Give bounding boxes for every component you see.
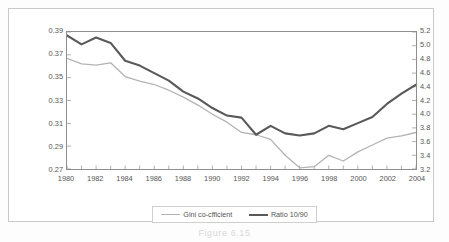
x-tick-label: 1994: [263, 174, 279, 183]
figure-caption: Figure 6.15: [0, 228, 449, 242]
x-tick-label: 1996: [292, 174, 308, 183]
y-tick-label-right: 4.2: [420, 97, 430, 104]
x-axis-labels: 1980198219841986198819901992199419961998…: [66, 174, 417, 188]
y-tick-label-left: 0.29: [49, 143, 63, 150]
x-tick-label: 2002: [380, 174, 396, 183]
y-tick-label-right: 4.6: [420, 69, 430, 76]
series-line-ratio-10-90: [67, 35, 416, 135]
x-tick-label: 1998: [321, 174, 337, 183]
figure-frame: 0.270.290.310.330.350.370.39 3.23.43.63.…: [8, 8, 434, 222]
y-axis-left-labels: 0.270.290.310.330.350.370.39: [31, 31, 63, 170]
legend-line-swatch: [161, 214, 180, 215]
y-tick-label-right: 3.2: [420, 166, 430, 173]
x-tick-label: 1988: [175, 174, 191, 183]
figure-root: 0.270.290.310.330.350.370.39 3.23.43.63.…: [0, 0, 449, 242]
y-tick-label-right: 4.8: [420, 55, 430, 62]
y-tick-label-right: 5.0: [420, 41, 430, 48]
y-tick-label-left: 0.27: [49, 166, 63, 173]
legend-label: Ratio 10/90: [271, 210, 308, 219]
y-tick-label-left: 0.39: [49, 27, 63, 34]
y-tick-label-right: 3.4: [420, 152, 430, 159]
x-tick-label: 2000: [350, 174, 366, 183]
series-line-gini-co-cfficient: [67, 58, 416, 168]
y-tick-label-left: 0.35: [49, 74, 63, 81]
y-tick-label-right: 4.4: [420, 83, 430, 90]
y-tick-label-left: 0.33: [49, 97, 63, 104]
x-tick-label: 2004: [409, 174, 425, 183]
y-tick-label-right: 3.8: [420, 125, 430, 132]
y-tick-label-left: 0.31: [49, 120, 63, 127]
y-tick-label-right: 3.6: [420, 138, 430, 145]
legend-line-swatch: [249, 214, 268, 216]
chart-legend: Gini co-cfficientRatio 10/90: [152, 206, 317, 223]
y-tick-label-left: 0.37: [49, 50, 63, 57]
legend-entry[interactable]: Ratio 10/90: [249, 210, 308, 219]
y-tick-label-right: 4.0: [420, 111, 430, 118]
x-tick-label: 1990: [204, 174, 220, 183]
x-tick-label: 1982: [87, 174, 103, 183]
chart-plot-svg: [67, 32, 416, 169]
plot-area: [66, 31, 417, 170]
x-tick-label: 1992: [233, 174, 249, 183]
x-tick-label: 1984: [116, 174, 132, 183]
x-tick-label: 1986: [146, 174, 162, 183]
y-axis-right-labels: 3.23.43.63.84.04.24.44.64.85.05.2: [420, 31, 449, 170]
legend-entry[interactable]: Gini co-cfficient: [161, 210, 232, 219]
legend-label: Gini co-cfficient: [183, 210, 232, 219]
x-tick-label: 1980: [58, 174, 74, 183]
y-tick-label-right: 5.2: [420, 27, 430, 34]
